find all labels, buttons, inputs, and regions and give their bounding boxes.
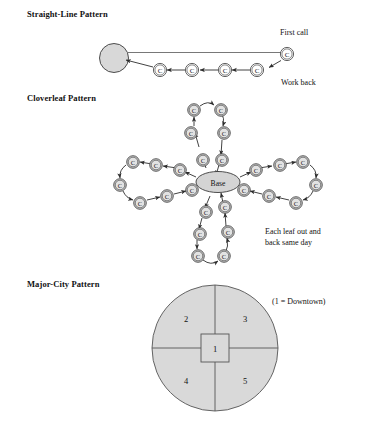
svg-text:C: C: [222, 130, 226, 137]
call-node-label: C: [158, 67, 163, 75]
svg-text:C: C: [219, 107, 223, 114]
cloverleaf-node: C: [250, 164, 263, 177]
cloverleaf-node: C: [238, 184, 251, 197]
cloverleaf-leaf-right: C C C C: [238, 156, 323, 210]
cloverleaf-node: C: [200, 206, 213, 219]
svg-text:C: C: [165, 193, 169, 200]
cloverleaf-node: C: [218, 127, 231, 140]
svg-text:C: C: [196, 253, 200, 260]
major-city-diagram: 1 2 3 4 5: [152, 285, 278, 411]
svg-text:C: C: [138, 200, 142, 207]
cloverleaf-node: C: [222, 226, 235, 239]
svg-text:C: C: [314, 182, 318, 189]
cloverleaf-node: C: [192, 250, 205, 263]
zone-label-3: 3: [243, 314, 247, 324]
cloverleaf-leaf-left: C C C C: [114, 156, 199, 210]
cloverleaf-leaf-top: C C C C: [185, 103, 231, 175]
cloverleaf-node: C: [194, 228, 207, 241]
call-node: C: [218, 63, 231, 76]
cloverleaf-node: C: [216, 154, 229, 167]
cloverleaf-node: C: [219, 201, 232, 214]
zone-label-5: 5: [243, 376, 247, 386]
base-label: Base: [211, 179, 226, 188]
cloverleaf-node: C: [134, 197, 147, 210]
cloverleaf-leaf-bottom: C C C C: [192, 193, 235, 263]
cloverleaf-diagram: C C C C: [114, 103, 323, 264]
call-node-label: C: [285, 51, 290, 59]
cloverleaf-node: C: [185, 127, 198, 140]
call-node: C: [153, 63, 166, 76]
svg-text:C: C: [189, 130, 193, 137]
svg-text:C: C: [118, 182, 122, 189]
cloverleaf-node: C: [218, 250, 231, 263]
cloverleaf-node: C: [127, 156, 140, 169]
svg-text:C: C: [198, 231, 202, 238]
cloverleaf-node: C: [188, 104, 201, 117]
cloverleaf-node: C: [114, 179, 127, 192]
svg-text:C: C: [301, 159, 305, 166]
zone-label-2: 2: [184, 314, 188, 324]
svg-text:C: C: [294, 200, 298, 207]
return-arrow-5: [269, 61, 281, 68]
svg-text:C: C: [226, 229, 230, 236]
straight-line-diagram: C C C C C: [100, 44, 294, 77]
cloverleaf-node: C: [197, 154, 210, 167]
call-node-label: C: [223, 67, 228, 75]
call-node-label: C: [255, 67, 260, 75]
cloverleaf-node: C: [150, 159, 163, 172]
cloverleaf-node: C: [174, 164, 187, 177]
svg-text:C: C: [192, 107, 196, 114]
zone-label-1: 1: [213, 344, 217, 354]
svg-text:C: C: [267, 193, 271, 200]
cloverleaf-node: C: [263, 190, 276, 203]
cloverleaf-node: C: [290, 197, 303, 210]
svg-text:C: C: [204, 209, 208, 216]
svg-text:C: C: [190, 187, 194, 194]
cloverleaf-node: C: [186, 184, 199, 197]
svg-text:C: C: [154, 162, 158, 169]
call-node: C: [185, 63, 198, 76]
return-arrow-1: [126, 60, 153, 67]
figure-canvas: Straight-Line Pattern Cloverleaf Pattern…: [0, 0, 368, 429]
cloverleaf-node: C: [297, 156, 310, 169]
svg-text:C: C: [222, 253, 226, 260]
svg-text:C: C: [278, 162, 282, 169]
cloverleaf-node: C: [161, 190, 174, 203]
cloverleaf-base: Base: [196, 172, 240, 193]
svg-text:C: C: [201, 157, 205, 164]
patterns-diagram: C C C C C: [0, 0, 368, 429]
call-node: C: [250, 63, 263, 76]
cloverleaf-node: C: [215, 104, 228, 117]
cloverleaf-node: C: [274, 159, 287, 172]
svg-text:C: C: [254, 167, 258, 174]
svg-text:C: C: [178, 167, 182, 174]
svg-text:C: C: [220, 157, 224, 164]
svg-text:C: C: [242, 187, 246, 194]
home-base-circle: [100, 44, 129, 73]
svg-text:C: C: [223, 204, 227, 211]
call-node-label: C: [190, 67, 195, 75]
call-node: C: [280, 47, 293, 60]
svg-text:C: C: [131, 159, 135, 166]
cloverleaf-node: C: [310, 179, 323, 192]
